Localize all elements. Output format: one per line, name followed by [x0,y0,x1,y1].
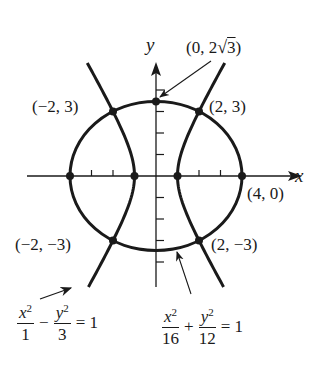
minus-operator: − [39,313,49,333]
fraction-x2-over-1: x2 1 [17,303,34,344]
point-marker [195,108,203,116]
denominator: 16 [162,328,179,348]
plus-operator: + [184,317,194,337]
hyperbola-equation: x2 1 − y2 3 = 1 [15,303,101,344]
denominator: 12 [199,328,216,348]
point-marker [152,98,160,106]
exponent: 2 [63,302,69,314]
numerator-var: x [19,303,27,322]
point-marker [195,237,203,245]
denominator: 1 [21,324,30,344]
point-marker [238,172,246,180]
sqrt-icon: √ [217,37,227,57]
label-upper-right-point: (2, 3) [209,98,246,115]
point-marker [109,108,117,116]
exponent: 2 [208,306,214,318]
y-axis-label: y [146,35,154,54]
equals-one: = 1 [76,313,98,333]
label-top-point-radicand: 3 [227,38,236,57]
exponent: 2 [172,306,178,318]
fraction-x2-over-16: x2 16 [162,307,179,348]
point-marker [109,237,117,245]
label-top-point: (0, 2√3) [186,38,241,56]
label-upper-left-point: (−2, 3) [32,98,78,115]
label-lower-right-point: (2, −3) [211,236,257,253]
ellipse-equation: x2 16 + y2 12 = 1 [160,307,246,348]
label-top-point-prefix: (0, 2 [186,38,217,57]
hyperbola-left-branch [87,63,134,287]
fraction-y2-over-12: y2 12 [199,307,216,348]
equals-one: = 1 [221,317,243,337]
label-top-point-suffix: ) [236,38,242,57]
denominator: 3 [58,324,67,344]
point-marker [131,172,139,180]
label-right-vertex: (4, 0) [247,185,284,202]
label-lower-left-point: (−2, −3) [15,236,71,253]
ellipse-pointer-arrow [177,252,191,294]
point-marker [66,172,74,180]
top-point-pointer-arrow [160,61,211,97]
point-marker [174,172,182,180]
fraction-y2-over-3: y2 3 [54,303,71,344]
x-axis-label: x [295,166,303,185]
exponent: 2 [27,302,33,314]
hyperbola-pointer-arrow [40,288,71,299]
numerator-var: x [164,307,172,326]
